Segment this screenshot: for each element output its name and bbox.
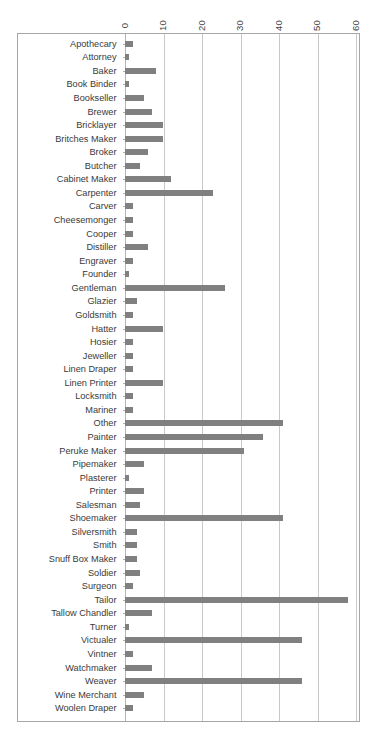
bar-row: Wine Merchant (18, 688, 359, 702)
bar (125, 95, 144, 101)
x-axis-tick-text: 40 (273, 20, 284, 31)
bar-row: Salesman (18, 498, 359, 512)
category-label: Broker (0, 147, 120, 157)
bar (125, 176, 171, 182)
bar (125, 54, 129, 60)
category-label: Apothecary (0, 39, 120, 49)
bar-row: Silversmith (18, 525, 359, 539)
category-label: Jeweller (0, 351, 120, 361)
bar (125, 217, 133, 223)
category-label: Painter (0, 432, 120, 442)
bar-row: Soldier (18, 566, 359, 580)
bar-row: Victualer (18, 634, 359, 648)
x-axis-tick-text: 10 (157, 20, 168, 31)
category-label: Bricklayer (0, 120, 120, 130)
bar (125, 109, 152, 115)
category-label: Locksmith (0, 391, 120, 401)
bar (125, 203, 133, 209)
bar-row: Vintner (18, 647, 359, 661)
bar (125, 434, 263, 440)
bar-row: Printer (18, 484, 359, 498)
category-label: Woolen Draper (0, 703, 120, 713)
bar (125, 244, 148, 250)
bar (125, 665, 152, 671)
bar (125, 136, 163, 142)
x-axis-tick-label: 40 (271, 20, 285, 31)
bar-row: Smith (18, 539, 359, 553)
bar-row: Surgeon (18, 579, 359, 593)
bar (125, 448, 244, 454)
category-label: Silversmith (0, 527, 120, 537)
category-label: Shoemaker (0, 513, 120, 523)
bar (125, 461, 144, 467)
category-label: Other (0, 418, 120, 428)
bar (125, 298, 137, 304)
x-axis-tick-text: 0 (119, 23, 130, 28)
bar-row: Turner (18, 620, 359, 634)
x-axis-tick-label: 20 (194, 20, 208, 31)
category-label: Distiller (0, 242, 120, 252)
category-label: Linen Draper (0, 364, 120, 374)
bar-row: Linen Printer (18, 376, 359, 390)
bar-row: Hatter (18, 322, 359, 336)
category-label: Cabinet Maker (0, 174, 120, 184)
bar-row: Weaver (18, 674, 359, 688)
category-label: Printer (0, 486, 120, 496)
bar-row: Goldsmith (18, 308, 359, 322)
bar (125, 339, 133, 345)
bar (125, 122, 163, 128)
bar-row: Carver (18, 200, 359, 214)
bar-row: Plasterer (18, 471, 359, 485)
x-axis-tick-text: 20 (196, 20, 207, 31)
bar-row: Other (18, 417, 359, 431)
category-label: Cooper (0, 229, 120, 239)
category-label: Cheesemonger (0, 215, 120, 225)
category-label: Linen Printer (0, 378, 120, 388)
bar-row: Book Binder (18, 78, 359, 92)
category-label: Carpenter (0, 188, 120, 198)
category-label: Brewer (0, 107, 120, 117)
bar-chart-figure: 0102030405060 ApothecaryAttorneyBakerBoo… (0, 0, 377, 737)
bar (125, 583, 133, 589)
x-axis-top: 0102030405060 (0, 0, 377, 33)
bar (125, 393, 133, 399)
bar (125, 515, 283, 521)
bar (125, 312, 133, 318)
category-label: Tallow Chandler (0, 608, 120, 618)
bar (125, 624, 129, 630)
x-axis-tick-text: 60 (350, 20, 361, 31)
bar-row: Gentleman (18, 281, 359, 295)
bar-row: Butcher (18, 159, 359, 173)
category-label: Tailor (0, 595, 120, 605)
category-label: Gentleman (0, 283, 120, 293)
bar-row: Baker (18, 64, 359, 78)
bar-row: Engraver (18, 254, 359, 268)
category-label: Engraver (0, 256, 120, 266)
bar (125, 68, 156, 74)
category-label: Britches Maker (0, 134, 120, 144)
bar (125, 597, 348, 603)
bar-row: Mariner (18, 403, 359, 417)
bar (125, 285, 225, 291)
category-label: Mariner (0, 405, 120, 415)
x-axis-tick-label: 50 (310, 20, 324, 31)
bar (125, 651, 133, 657)
bar-row: Broker (18, 145, 359, 159)
bar (125, 326, 163, 332)
bar (125, 81, 129, 87)
bar (125, 529, 137, 535)
bar-row: Bookseller (18, 91, 359, 105)
bar (125, 556, 137, 562)
bar-row: Attorney (18, 51, 359, 65)
bar-row: Brewer (18, 105, 359, 119)
category-label: Surgeon (0, 581, 120, 591)
bar (125, 190, 213, 196)
bar-row: Cooper (18, 227, 359, 241)
category-label: Weaver (0, 676, 120, 686)
category-label: Bookseller (0, 93, 120, 103)
category-label: Victualer (0, 635, 120, 645)
bar-row: Hosier (18, 335, 359, 349)
bar (125, 692, 144, 698)
bar-row: Cheesemonger (18, 213, 359, 227)
category-label: Watchmaker (0, 663, 120, 673)
